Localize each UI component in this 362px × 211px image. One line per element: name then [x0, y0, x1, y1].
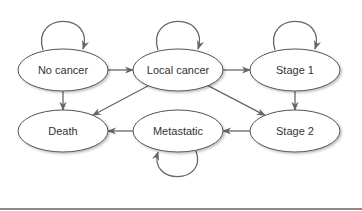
edge-local-cancer-to-stage2: [208, 86, 265, 116]
node-label: Death: [48, 125, 77, 137]
node-label: Stage 1: [276, 64, 314, 76]
state-diagram: No cancerLocal cancerStage 1DeathMetasta…: [0, 0, 362, 211]
self-loop-local-cancer: [156, 21, 199, 50]
node-label: Local cancer: [147, 64, 210, 76]
edges: [41, 21, 316, 176]
node-local-cancer: Local cancer: [133, 49, 223, 91]
node-metastatic: Metastatic: [133, 110, 223, 152]
node-stage2: Stage 2: [250, 110, 340, 152]
node-death: Death: [18, 110, 108, 152]
bottom-divider: [0, 208, 362, 210]
edge-local-cancer-to-death: [93, 86, 149, 115]
node-label: No cancer: [38, 64, 88, 76]
node-label: Stage 2: [276, 125, 314, 137]
node-no-cancer: No cancer: [18, 49, 108, 91]
self-loop-metastatic: [157, 151, 198, 177]
node-label: Metastatic: [153, 125, 204, 137]
self-loop-no-cancer: [41, 21, 84, 50]
nodes: No cancerLocal cancerStage 1DeathMetasta…: [18, 49, 340, 152]
self-loop-stage1: [273, 21, 316, 50]
node-stage1: Stage 1: [250, 49, 340, 91]
